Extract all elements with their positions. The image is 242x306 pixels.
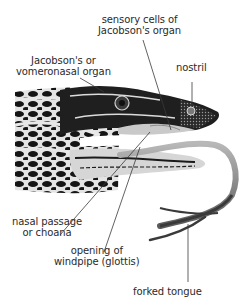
- label-glottis: opening of windpipe (glottis): [54, 245, 140, 267]
- label-line: forked tongue: [133, 286, 202, 297]
- label-nostril: nostril: [176, 62, 207, 73]
- label-line: Jacobson's organ: [98, 25, 181, 36]
- label-sensory-cells: sensory cells of Jacobson's organ: [98, 14, 181, 36]
- label-line: sensory cells of: [98, 14, 181, 25]
- nostril-shape: [187, 107, 195, 115]
- label-forked-tongue: forked tongue: [133, 286, 202, 297]
- label-line: or choana: [12, 227, 82, 238]
- label-nasal-passage: nasal passage or choana: [12, 216, 82, 238]
- label-line: Jacobson's or: [16, 55, 111, 66]
- label-line: vomeronasal organ: [16, 66, 111, 77]
- mouth-gap: [80, 135, 170, 146]
- label-line: opening of: [54, 245, 140, 256]
- label-line: nostril: [176, 62, 207, 73]
- label-line: windpipe (glottis): [54, 256, 140, 267]
- label-jacobsons-organ: Jacobson's or vomeronasal organ: [16, 55, 111, 77]
- label-line: nasal passage: [12, 216, 82, 227]
